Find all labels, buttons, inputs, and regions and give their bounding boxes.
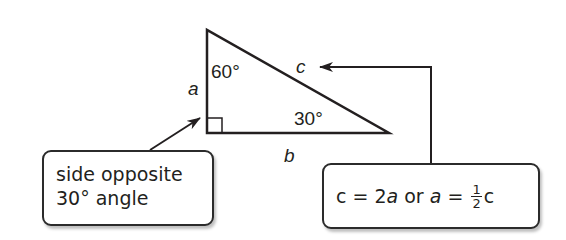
- left-callout-arrow: [150, 118, 200, 150]
- formula-a2: a: [430, 184, 442, 208]
- formula-eq2: =: [441, 184, 469, 208]
- right-callout-box: c = 2a or a = 12c: [322, 163, 540, 229]
- side-a-label: a: [188, 79, 199, 98]
- formula-c: c: [336, 184, 346, 208]
- side-b-label: b: [284, 146, 295, 165]
- fraction-numerator: 1: [471, 183, 481, 197]
- angle-60-label: 60°: [211, 62, 240, 81]
- left-callout-box: side opposite 30° angle: [42, 150, 214, 226]
- fraction-one-half: 12: [471, 183, 481, 210]
- side-c-label: c: [296, 57, 306, 76]
- formula-a1: a: [387, 184, 399, 208]
- angle-30-label: 30°: [294, 109, 323, 128]
- right-angle-marker: [207, 118, 222, 133]
- formula-c2: c: [484, 184, 494, 208]
- left-callout-line1: side opposite: [56, 162, 212, 186]
- left-callout-line2: 30° angle: [56, 186, 212, 210]
- right-callout-connector: [320, 67, 431, 163]
- formula-or: or: [398, 184, 430, 208]
- formula-eq1: = 2: [346, 184, 386, 208]
- formula: c = 2a or a = 12c: [336, 183, 494, 210]
- fraction-denominator: 2: [471, 197, 481, 210]
